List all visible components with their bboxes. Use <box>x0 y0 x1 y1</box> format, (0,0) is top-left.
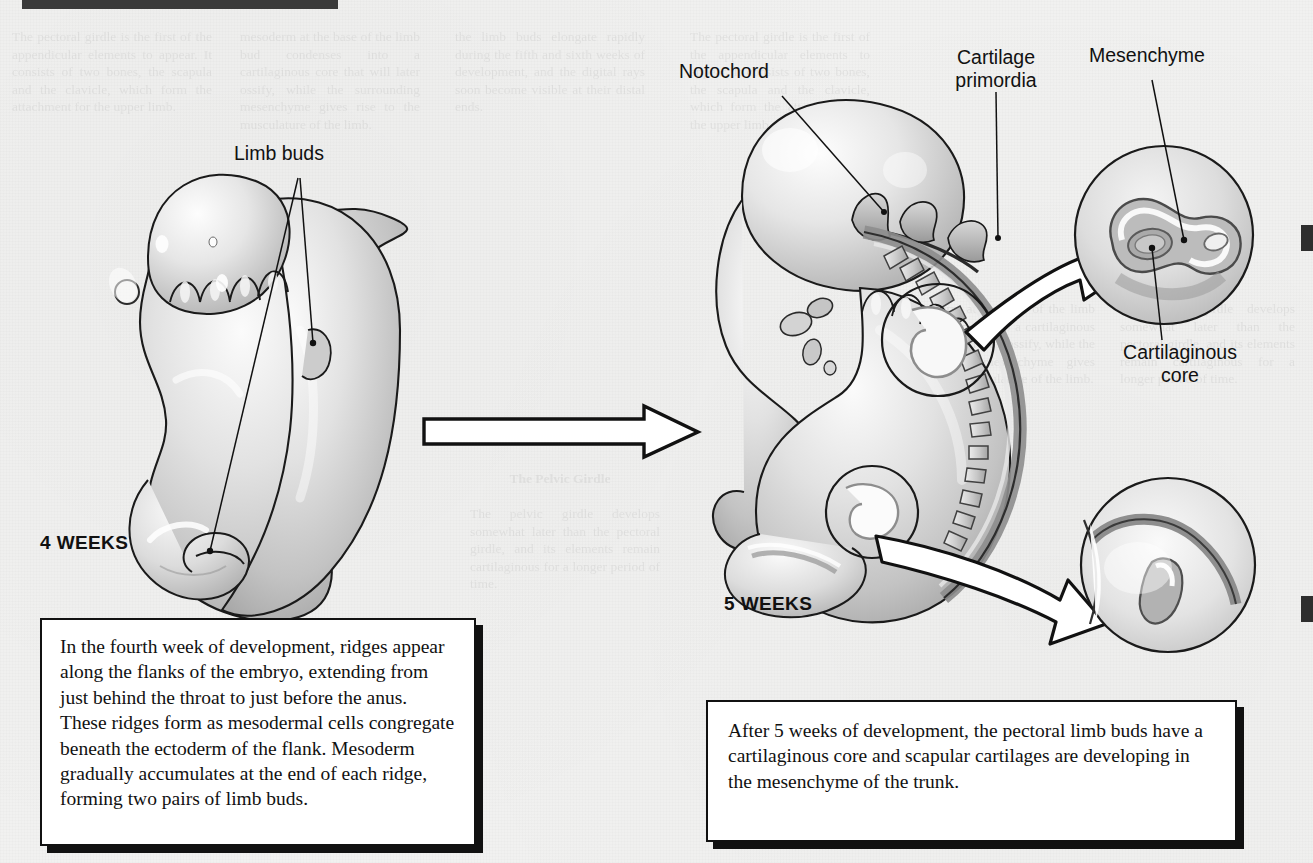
ghost-text-column-1: The pectoral girdle is the first of the … <box>12 28 212 116</box>
label-5-weeks: 5 WEEKS <box>724 592 812 615</box>
cartilaginous-core-inset-art <box>1081 478 1255 652</box>
mesenchyme-inset-art <box>1075 80 1253 340</box>
label-cartilaginous-core: Cartilaginous core <box>1110 341 1250 387</box>
caption-text-left: In the fourth week of development, ridge… <box>60 634 458 812</box>
label-mesenchyme: Mesenchyme <box>1089 44 1205 67</box>
label-notochord: Notochord <box>679 60 769 83</box>
page-edge-tab-lower <box>1301 596 1313 622</box>
label-cartilage-primordia: Cartilage primordia <box>938 46 1054 92</box>
ghost-text-column-5: The pelvic girdle develops somewhat late… <box>470 505 660 593</box>
ghost-text-column-7: mesoderm at the base of the limb bud con… <box>905 300 1095 388</box>
embryo-4-weeks <box>104 175 408 621</box>
embryo-5-weeks <box>713 92 1132 644</box>
ghost-text-column-2: mesoderm at the base of the limb bud con… <box>240 28 420 133</box>
caption-text-right: After 5 weeks of development, the pector… <box>728 718 1217 794</box>
ghost-text-column-4: The Pelvic Girdle <box>470 470 650 488</box>
caption-box-4-weeks: In the fourth week of development, ridge… <box>40 618 476 846</box>
caption-box-5-weeks: After 5 weeks of development, the pector… <box>706 700 1237 842</box>
header-rule-bar <box>22 0 338 9</box>
page-edge-tab-upper <box>1301 225 1313 251</box>
stage-transition-arrow-shape <box>424 406 698 457</box>
ghost-text-column-3: the limb buds elongate rapidly during th… <box>455 28 645 116</box>
label-limb-buds: Limb buds <box>234 142 324 165</box>
label-4-weeks: 4 WEEKS <box>40 531 128 554</box>
